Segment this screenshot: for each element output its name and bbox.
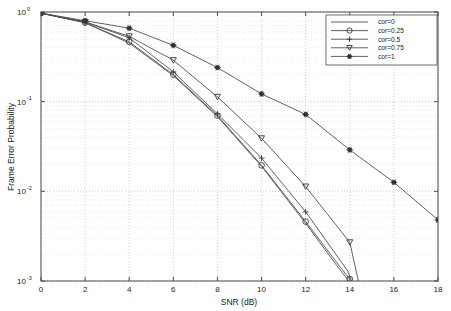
x-tick-label: 4 [127,285,132,294]
y-axis-label-text: Frame Error Probability [6,102,16,191]
x-tick-label: 8 [215,285,220,294]
x-tick-label: 12 [301,285,310,294]
y-tick-exponent: -3 [27,275,32,281]
x-axis-label-text: SNR (dB) [221,297,258,307]
y-tick-mantissa: 10 [17,98,26,107]
y-axis-label: Frame Error Probability [6,102,16,191]
y-tick-exponent: 0 [27,6,30,12]
y-tick-mantissa: 10 [17,8,26,17]
legend-label: cor=0.5 [378,36,401,43]
legend: cor=0cor=0.25cor=0.5cor=0.75cor=1 [326,15,437,65]
x-tick-label: 0 [39,285,44,294]
figure-container: 02468101214161810010-110-210-3 SNR (dB) … [0,0,451,311]
legend-label: cor=0.25 [378,27,404,34]
y-tick-exponent: -1 [27,95,32,101]
x-tick-label: 2 [83,285,88,294]
x-tick-label: 18 [434,285,443,294]
y-tick-mantissa: 10 [17,277,26,286]
legend-label: cor=1 [378,53,395,60]
legend-label: cor=0 [378,18,395,25]
frame-error-probability-chart: 02468101214161810010-110-210-3 SNR (dB) … [0,0,451,311]
x-tick-label: 10 [257,285,266,294]
x-tick-label: 14 [345,285,354,294]
y-tick-exponent: -2 [27,185,32,191]
legend-label: cor=0.75 [378,44,404,51]
y-tick-mantissa: 10 [17,187,26,196]
x-axis-label: SNR (dB) [221,297,258,307]
x-tick-label: 16 [389,285,398,294]
x-tick-label: 6 [171,285,176,294]
